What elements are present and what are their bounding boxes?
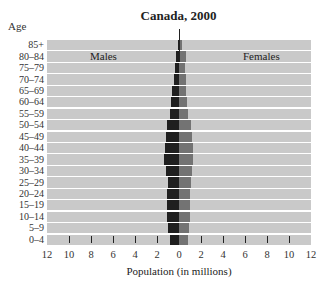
y-axis-title: Age [8, 20, 26, 32]
x-axis-title: Population (in millions) [47, 265, 311, 277]
female-bar [179, 166, 192, 176]
y-tick-label: 70–74 [19, 74, 44, 85]
y-tick-label: 55–59 [19, 108, 44, 119]
y-tick-label: 10–14 [19, 211, 44, 222]
female-bar [179, 132, 192, 142]
male-bar [166, 132, 179, 142]
females-label: Females [243, 50, 280, 62]
y-tick-label: 80–84 [19, 51, 44, 62]
male-bar [172, 86, 179, 96]
x-tick-label: 2 [198, 249, 203, 260]
y-tick-label: 25–29 [19, 177, 44, 188]
y-tick-label: 50–54 [19, 119, 44, 130]
y-tick-label: 30–34 [19, 165, 44, 176]
x-tick-label: 10 [284, 249, 295, 260]
female-bar [179, 109, 188, 119]
x-tick-label: 4 [132, 249, 137, 260]
y-tick-label: 20–24 [19, 188, 44, 199]
male-bar [164, 154, 179, 164]
male-bar [168, 177, 179, 187]
female-bar [179, 200, 190, 210]
x-tick-label: 6 [242, 249, 247, 260]
x-tick [223, 236, 224, 243]
x-tick-label: 4 [220, 249, 225, 260]
y-tick-label: 5–9 [29, 222, 44, 233]
x-tick [289, 236, 290, 243]
female-bar [179, 189, 190, 199]
x-tick-label: 0 [176, 249, 181, 260]
x-tick-label: 8 [88, 249, 93, 260]
x-tick-label: 6 [110, 249, 115, 260]
y-tick-label: 45–49 [19, 131, 44, 142]
x-tick [267, 236, 268, 243]
y-tick-label: 35–39 [19, 154, 44, 165]
center-axis-line [179, 29, 180, 62]
chart-title: Canada, 2000 [0, 8, 327, 24]
male-bar [171, 97, 179, 107]
male-bar [165, 143, 179, 153]
x-tick-label: 12 [306, 249, 317, 260]
males-label: Males [90, 50, 117, 62]
x-tick-label: 2 [154, 249, 159, 260]
female-bar [179, 235, 188, 245]
male-bar [170, 109, 179, 119]
male-bar [170, 235, 179, 245]
x-tick [245, 236, 246, 243]
female-bar [179, 63, 185, 73]
female-bar [179, 86, 186, 96]
female-bar [179, 74, 186, 84]
female-bar [179, 143, 193, 153]
male-bar [167, 212, 179, 222]
male-bar [166, 166, 179, 176]
male-bar [168, 223, 179, 233]
male-bar [167, 200, 179, 210]
female-bar [179, 223, 189, 233]
female-bar [179, 177, 191, 187]
y-tick-label: 75–79 [19, 62, 44, 73]
female-bar [179, 97, 187, 107]
y-tick-label: 0–4 [29, 234, 44, 245]
x-tick [135, 236, 136, 243]
female-bar [179, 154, 193, 164]
male-bar [167, 120, 179, 130]
x-tick [113, 236, 114, 243]
x-tick-label: 8 [264, 249, 269, 260]
x-tick [157, 236, 158, 243]
female-bar [179, 212, 190, 222]
x-tick-label: 12 [42, 249, 53, 260]
male-bar [167, 189, 179, 199]
plot-area [47, 39, 311, 245]
y-tick-label: 85+ [28, 39, 44, 50]
y-tick-label: 40–44 [19, 142, 44, 153]
x-tick-label: 10 [64, 249, 75, 260]
y-tick-label: 15–19 [19, 199, 44, 210]
y-tick-label: 65–69 [19, 85, 44, 96]
x-tick [201, 236, 202, 243]
x-tick [91, 236, 92, 243]
x-tick [69, 236, 70, 243]
y-tick-label: 60–64 [19, 96, 44, 107]
female-bar [179, 120, 191, 130]
